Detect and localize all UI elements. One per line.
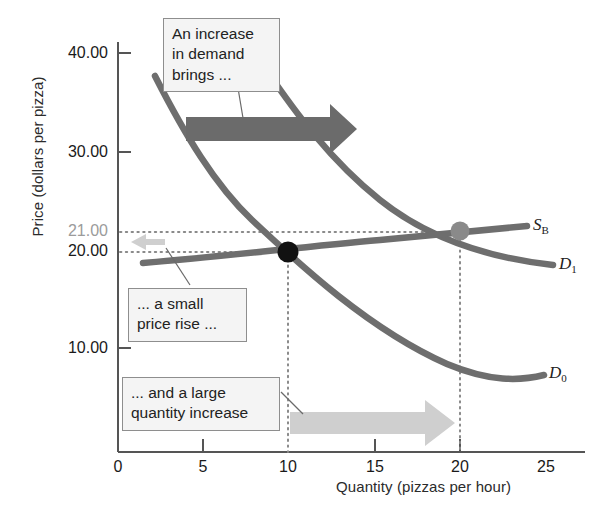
x-axis-title: Quantity (pizzas per hour): [336, 478, 511, 495]
y-axis-title: Price (dollars per pizza): [29, 57, 46, 257]
callout-demand-increase: An increase in demand brings ...: [163, 18, 280, 92]
x-tick-label-15: 15: [355, 458, 395, 476]
curve-label-demand-1-subscript: 1: [571, 263, 577, 275]
curve-label-demand-0-letter: D: [549, 363, 561, 382]
quantity-increase-arrow: [290, 400, 455, 446]
callout-quantity-increase: ... and a large quantity increase: [122, 377, 280, 431]
x-tick-label-25: 25: [526, 458, 566, 476]
callout-price-rise: ... a small price rise ...: [128, 288, 247, 342]
x-axis-ticks: [203, 439, 460, 452]
y-tick-label-30: 30.00: [36, 143, 108, 161]
x-tick-label-0: 0: [98, 458, 138, 476]
equilibrium-point-new: [451, 222, 470, 241]
y-tick-label-10: 10.00: [36, 339, 108, 357]
chart-figure: 40.00 30.00 21.00 20.00 10.00 0 5 10 15 …: [0, 0, 591, 515]
demand-shift-arrow: [186, 104, 357, 154]
x-tick-label-5: 5: [183, 458, 223, 476]
curve-label-supply-letter: S: [533, 215, 542, 234]
curve-label-demand-1: D1: [559, 254, 577, 275]
curve-label-supply-subscript: B: [542, 224, 549, 236]
curve-label-demand-1-letter: D: [559, 254, 571, 273]
y-tick-label-21: 21.00: [36, 222, 108, 240]
curve-label-demand-0: D0: [549, 363, 567, 384]
x-tick-label-20: 20: [440, 458, 480, 476]
equilibrium-point-initial: [278, 242, 299, 263]
curve-label-demand-0-subscript: 0: [561, 372, 567, 384]
y-tick-label-20: 20.00: [36, 242, 108, 260]
x-tick-label-10: 10: [268, 458, 308, 476]
y-tick-label-40: 40.00: [36, 44, 108, 62]
curve-label-supply: SB: [533, 215, 549, 236]
price-rise-arrow: [131, 234, 165, 250]
